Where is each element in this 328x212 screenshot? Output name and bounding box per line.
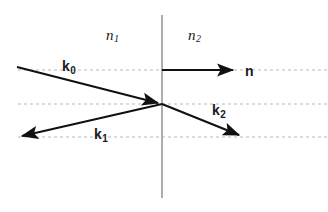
vector-label-k2-symbol: k [212,102,220,118]
medium-label-n1-symbol: n [106,27,114,43]
medium-label-n2-symbol: n [188,27,196,43]
normal-label-n-symbol: n [245,63,254,79]
vector-label-k0: k0 [62,59,76,76]
vector-label-k1-subscript: 1 [102,133,108,144]
diagram-canvas [0,0,328,212]
vector-label-k2: k2 [212,103,226,120]
vector-label-k2-subscript: 2 [220,109,226,120]
medium-label-n1-subscript: 1 [114,33,120,44]
vector-label-k1-symbol: k [94,126,102,142]
incident-vector-k0 [17,67,158,103]
vector-label-k1: k1 [94,127,108,144]
medium-label-n2: n2 [188,28,201,44]
normal-label-n: n [245,64,254,78]
vector-label-k0-symbol: k [62,58,70,74]
reflected-vector-k1 [22,104,162,136]
refracted-vector-k2 [162,104,239,135]
physics-diagram: n1 n2 k0 k1 k2 n [0,0,328,212]
medium-label-n2-subscript: 2 [196,33,202,44]
vector-label-k0-subscript: 0 [70,65,76,76]
medium-label-n1: n1 [106,28,119,44]
